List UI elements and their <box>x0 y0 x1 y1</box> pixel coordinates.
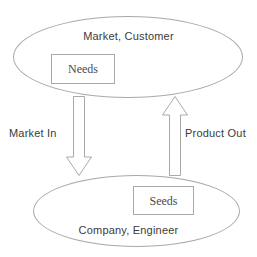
ellipse-company-engineer-label: Company, Engineer <box>0 224 257 237</box>
box-needs-label: Needs <box>68 63 98 75</box>
box-seeds: Seeds <box>133 186 194 215</box>
ellipse-market-customer <box>13 16 243 98</box>
flow-label-market-in: Market In <box>9 127 57 140</box>
ellipse-market-customer-label: Market, Customer <box>0 30 257 43</box>
box-needs: Needs <box>51 54 115 84</box>
diagram-canvas: Market, Customer Needs Company, Engineer… <box>0 0 257 257</box>
box-seeds-label: Seeds <box>150 195 178 207</box>
block-arrow-down-icon <box>66 96 92 176</box>
flow-label-product-out: Product Out <box>185 127 246 140</box>
